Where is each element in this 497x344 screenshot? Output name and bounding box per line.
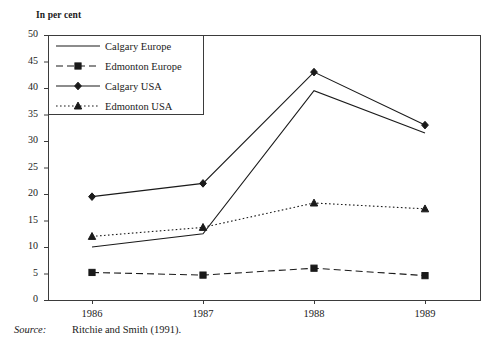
data-point-marker [88, 233, 95, 240]
y-axis-tick-label: 0 [16, 293, 38, 304]
data-point-marker [422, 121, 429, 129]
source-note: Source:Ritchie and Smith (1991). [14, 324, 181, 335]
series-edmonton-usa [88, 199, 428, 239]
y-axis-tick-label: 10 [16, 240, 38, 251]
legend-item-edmonton-usa[interactable]: Edmonton USA [49, 96, 205, 116]
data-point-marker [199, 223, 206, 230]
source-label: Source: [14, 324, 72, 335]
y-axis-tick-label: 5 [16, 267, 38, 278]
chart-legend: Calgary EuropeEdmonton EuropeCalgary USA… [48, 35, 204, 115]
y-axis-tick-label: 50 [16, 28, 38, 39]
data-point-marker [89, 269, 95, 275]
legend-sample-marker [75, 63, 81, 69]
data-point-marker [310, 199, 317, 206]
legend-line-sample-icon [54, 79, 102, 93]
legend-item-label: Edmonton USA [105, 101, 172, 112]
y-axis-tick-label: 15 [16, 214, 38, 225]
y-axis-tick-label: 20 [16, 187, 38, 198]
source-value: Ritchie and Smith (1991). [72, 324, 181, 335]
legend-item-edmonton-europe[interactable]: Edmonton Europe [49, 56, 205, 76]
legend-item-label: Edmonton Europe [105, 61, 182, 72]
series-line [92, 268, 425, 275]
data-point-marker [311, 265, 317, 271]
y-axis-tick-label: 25 [16, 161, 38, 172]
y-axis-tick-label: 30 [16, 134, 38, 145]
series-line [92, 203, 425, 236]
legend-item-calgary-usa[interactable]: Calgary USA [49, 76, 205, 96]
x-axis-tick-label: 1989 [400, 308, 450, 319]
legend-line-sample-icon [54, 39, 102, 53]
legend-line-sample-icon [54, 59, 102, 73]
x-axis-tick-label: 1986 [67, 308, 117, 319]
legend-line-sample-icon [54, 99, 102, 113]
legend-item-calgary-europe[interactable]: Calgary Europe [49, 36, 205, 56]
y-axis-tick-label: 45 [16, 55, 38, 66]
data-point-marker [200, 272, 206, 278]
x-axis-tick-label: 1988 [289, 308, 339, 319]
legend-sample-marker [75, 82, 82, 90]
series-edmonton-europe [89, 265, 428, 279]
y-axis-tick-label: 35 [16, 108, 38, 119]
data-point-marker [89, 193, 96, 201]
figure-container: In per cent Calgary EuropeEdmonton Europ… [0, 0, 497, 344]
data-point-marker [422, 273, 428, 279]
y-axis-tick-label: 40 [16, 81, 38, 92]
legend-item-label: Calgary Europe [105, 41, 171, 52]
x-axis-tick-label: 1987 [178, 308, 228, 319]
legend-item-label: Calgary USA [105, 81, 162, 92]
